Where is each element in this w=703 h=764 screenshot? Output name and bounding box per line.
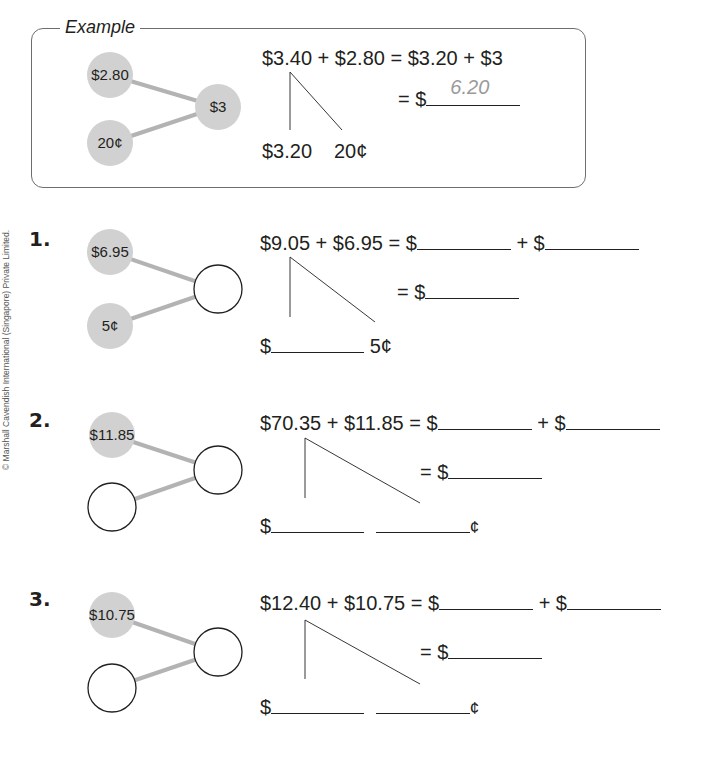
problem-2-equation-text: $70.35 + $11.85 = $ [260,412,438,434]
problem-2-split-prefix: $ [260,515,271,537]
problem-3-blank-1[interactable] [439,592,533,610]
example-bond-top-label: $2.80 [82,67,138,83]
problem-3-split-row: $ ¢ [260,696,479,720]
problem-2-split-blank-dollars[interactable] [271,515,364,533]
problem-3-equation: $12.40 + $10.75 = $ + $ [260,592,661,614]
problem-1-equation: $9.05 + $6.95 = $ + $ [260,232,639,254]
problem-2-equation: $70.35 + $11.85 = $ + $ [260,412,660,434]
problem-3-result-blank[interactable] [448,641,542,659]
example-equation: $3.40 + $2.80 = $3.20 + $3 [262,47,503,69]
number-bond-diagrams [0,0,703,764]
example-result-prefix: = $ [398,88,426,110]
problem-3-whole-input[interactable] [194,628,242,676]
problem-1-split-right: 5¢ [370,335,392,357]
problem-1-plus: + $ [516,232,544,254]
problem-2-split-row: $ ¢ [260,515,479,539]
example-bond-bottom-label: 20¢ [82,135,138,151]
problem-3-bond-top-label: $10.75 [84,607,140,623]
problem-3-split-blank-dollars[interactable] [271,696,364,714]
problem-3-split-blank-cents[interactable] [376,696,470,714]
problem-1-split-prefix: $ [260,335,271,357]
problem-1-result-blank[interactable] [425,281,519,299]
problem-1-blank-1[interactable] [417,232,511,250]
problem-3-plus: + $ [539,592,567,614]
example-answer-blank: 6.20 [426,88,520,106]
problem-1-blank-2[interactable] [545,232,639,250]
problem-3-result-row: = $ [420,641,542,663]
problem-2-result-row: = $ [420,461,542,483]
problem-3-equation-text: $12.40 + $10.75 = $ [260,592,439,614]
problem-1-bond-bottom-label: 5¢ [82,318,138,334]
problem-2-whole-input[interactable] [194,446,242,494]
problem-2-cent-sign: ¢ [470,518,479,537]
problem-2-part-input[interactable] [88,483,136,531]
problem-2-bond-top-label: $11.85 [84,427,140,443]
problem-2-plus: + $ [537,412,565,434]
problem-1-result-prefix: = $ [397,281,425,303]
example-split-right: 20¢ [334,140,367,162]
problem-3-result-prefix: = $ [420,641,448,663]
problem-1-number: 1. [29,227,51,251]
problem-3-cent-sign: ¢ [470,699,479,718]
problem-3-split-prefix: $ [260,696,271,718]
problem-1-whole-input[interactable] [194,265,242,313]
problem-2-number: 2. [29,408,51,432]
example-answer-value: 6.20 [450,76,489,98]
problem-3-blank-2[interactable] [567,592,661,610]
problem-2-blank-2[interactable] [566,412,660,430]
problem-2-result-blank[interactable] [448,461,542,479]
problem-1-split-blank[interactable] [271,335,364,353]
problem-3-number: 3. [29,587,51,611]
problem-1-equation-text: $9.05 + $6.95 = $ [260,232,417,254]
problem-2-result-prefix: = $ [420,461,448,483]
problem-2-split-blank-cents[interactable] [376,515,470,533]
example-split-left: $3.20 [262,140,312,162]
problem-1-split-row: $ 5¢ [260,335,392,357]
problem-3-part-input[interactable] [88,664,136,712]
problem-1-result-row: = $ [397,281,519,303]
problem-1-bond-top-label: $6.95 [82,244,138,260]
example-result-row: = $6.20 [398,88,520,110]
problem-2-blank-1[interactable] [438,412,532,430]
example-bond-whole-label: $3 [190,99,246,115]
